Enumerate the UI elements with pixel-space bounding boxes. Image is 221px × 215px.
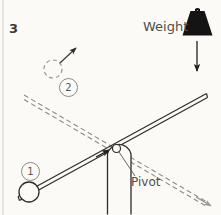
figure-number: 3: [9, 22, 18, 35]
ball-launched-ghost: [44, 60, 62, 78]
pivot-label: Pivot: [131, 176, 160, 188]
ball-trajectory-arrow: [60, 48, 76, 63]
figure-canvas: 3 Weight Pivot 1 2: [0, 0, 221, 215]
pivot-post: [108, 144, 132, 214]
weight-label: Weight: [143, 20, 188, 33]
step-badge-1: 1: [21, 162, 40, 181]
pivot-point: [113, 145, 121, 153]
step-badge-2: 2: [59, 78, 78, 97]
load-ball: [19, 182, 39, 202]
